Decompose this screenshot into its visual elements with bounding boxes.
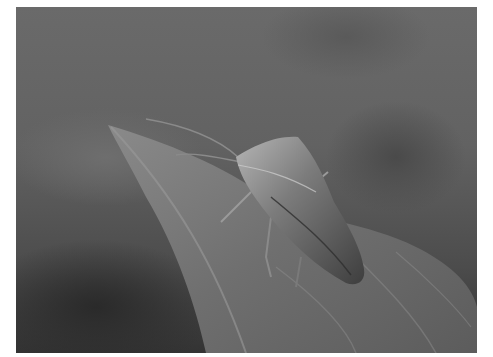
- photo: [16, 7, 477, 353]
- scene: [16, 7, 477, 353]
